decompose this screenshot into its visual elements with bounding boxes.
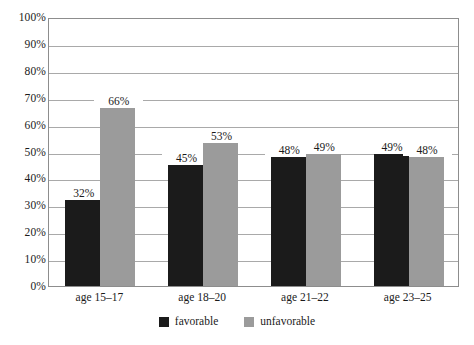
bar-value-label: 48% (403, 145, 452, 157)
bar-unfavorable-4 (409, 157, 444, 286)
bar-value-label: 66% (94, 96, 143, 108)
bar-unfavorable-2 (203, 143, 238, 286)
legend-label: unfavorable (260, 316, 315, 328)
y-axis-tick-label: 10% (2, 254, 46, 266)
y-axis-tick-label: 80% (2, 66, 46, 78)
y-axis-tick-label: 0% (2, 281, 46, 293)
bar-chart: 100%90%80%70%60%50%40%30%20%10%0% 32%66%… (0, 0, 474, 345)
y-axis-tick-label: 100% (2, 12, 46, 24)
legend-swatch-icon (159, 317, 169, 327)
plot-area: 32%66%45%53%48%49%49%48% (48, 18, 459, 287)
bar-favorable-2 (168, 165, 203, 286)
y-axis-tick-label: 60% (2, 120, 46, 132)
y-axis: 100%90%80%70%60%50%40%30%20%10%0% (0, 0, 46, 345)
y-axis-tick-label: 50% (2, 147, 46, 159)
gridline (49, 46, 458, 47)
legend-item-favorable[interactable]: favorable (159, 316, 218, 328)
bar-unfavorable-1 (100, 108, 135, 286)
legend-swatch-icon (244, 317, 254, 327)
gridline (49, 73, 458, 74)
bar-unfavorable-3 (306, 154, 341, 286)
legend-item-unfavorable[interactable]: unfavorable (244, 316, 315, 328)
y-axis-tick-label: 40% (2, 173, 46, 185)
bar-value-label: 49% (300, 142, 349, 154)
bar-value-label: 53% (197, 131, 246, 143)
y-axis-tick-label: 70% (2, 93, 46, 105)
x-axis-tick-label: age 23–25 (356, 292, 459, 304)
legend-label: favorable (175, 316, 218, 328)
bar-favorable-3 (271, 157, 306, 286)
x-axis-tick-label: age 15–17 (48, 292, 151, 304)
y-axis-tick-label: 90% (2, 39, 46, 51)
y-axis-tick-label: 30% (2, 200, 46, 212)
y-axis-tick-label: 20% (2, 227, 46, 239)
bar-favorable-4 (374, 154, 409, 286)
bar-favorable-1 (65, 200, 100, 286)
x-axis-tick-label: age 18–20 (151, 292, 254, 304)
x-axis-tick-label: age 21–22 (254, 292, 357, 304)
chart-legend: favorableunfavorable (0, 316, 474, 328)
